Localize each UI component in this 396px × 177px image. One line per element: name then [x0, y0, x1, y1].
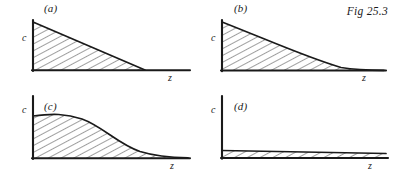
figure-25-3: Fig 25.3 (a) c z	[0, 0, 396, 177]
panel-b-z-label: z	[362, 72, 366, 83]
panel-b-fill	[222, 22, 384, 70]
panel-d-z-label: z	[368, 160, 372, 171]
panel-c-z-label: z	[170, 160, 174, 171]
panel-c-c-label: c	[22, 104, 26, 115]
panel-c-plot	[0, 88, 198, 177]
panel-b-plot	[198, 0, 396, 89]
panel-d-plot	[198, 88, 396, 177]
panel-c-tag: (c)	[44, 100, 57, 112]
panel-b: (b) c z	[198, 0, 396, 88]
panel-b-tag: (b)	[234, 2, 247, 14]
panel-c: (c) c z	[0, 88, 198, 176]
panel-d: (d) c z	[198, 88, 396, 176]
panel-a-z-label: z	[168, 72, 172, 83]
panel-a: (a) c z	[0, 0, 198, 88]
panel-a-tag: (a)	[44, 2, 57, 14]
panel-d-tag: (d)	[234, 100, 247, 112]
panel-a-c-label: c	[22, 32, 26, 43]
panel-d-c-label: c	[211, 104, 215, 115]
panel-b-c-label: c	[211, 32, 215, 43]
